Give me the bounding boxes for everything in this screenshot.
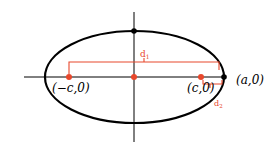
right-focus-point xyxy=(198,74,204,80)
center-point xyxy=(131,74,137,80)
right-vertex-point xyxy=(221,74,227,80)
d1-bracket xyxy=(69,58,219,74)
left-focus-point xyxy=(66,74,72,80)
vertex-label: (a,0) xyxy=(236,73,264,87)
ellipse-diagram: d1 d2 (−c,0) (c,0) (a,0) xyxy=(0,0,274,146)
right-focus-label: (c,0) xyxy=(187,81,215,95)
d2-label: d2 xyxy=(214,99,223,109)
top-vertex-point xyxy=(131,28,137,34)
left-focus-label: (−c,0) xyxy=(52,81,90,95)
d1-label: d1 xyxy=(140,49,150,60)
